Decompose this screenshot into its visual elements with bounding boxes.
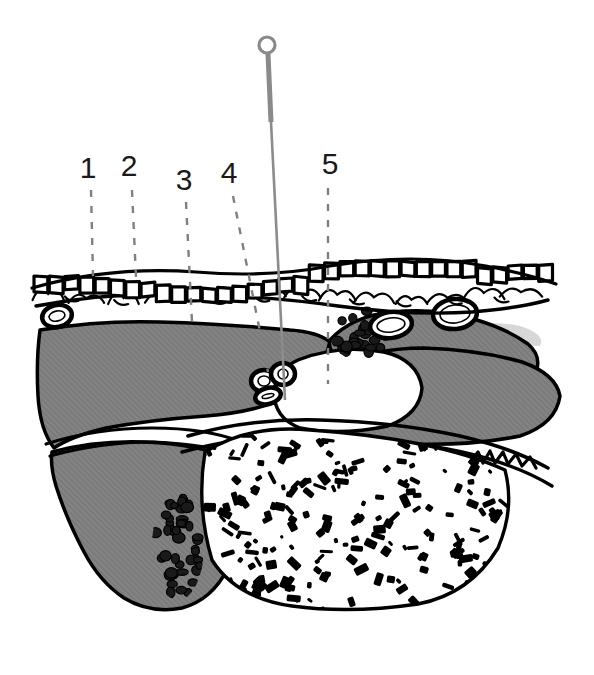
granule	[160, 551, 172, 561]
epidermis-cell	[294, 276, 308, 294]
epidermis-cell	[49, 276, 63, 294]
granule	[338, 317, 346, 325]
anatomical-figure: 12345	[0, 0, 594, 675]
granule	[192, 534, 203, 541]
granule	[161, 511, 171, 519]
epidermis-cell	[263, 281, 277, 295]
trabecula	[257, 460, 264, 467]
trabecula	[386, 575, 395, 583]
epidermis-cell	[80, 277, 94, 293]
trabecula	[396, 458, 407, 464]
epidermis-cell	[401, 261, 415, 276]
epidermis-cell	[370, 261, 384, 277]
epidermis-cell	[386, 261, 400, 277]
granule	[349, 314, 357, 323]
figure-canvas: 12345	[0, 0, 594, 675]
epidermis-cell	[218, 287, 232, 302]
granule	[177, 520, 186, 527]
granule	[171, 502, 178, 508]
epidermis-cell	[432, 262, 446, 276]
trabecula	[262, 547, 268, 554]
needle-shaft-upper	[268, 54, 271, 122]
granule	[181, 502, 194, 512]
label-number-3: 3	[176, 163, 193, 196]
trabecula	[467, 479, 474, 485]
granule	[365, 344, 376, 351]
epidermis-cell	[447, 261, 461, 276]
epidermis-cell	[95, 278, 109, 293]
epidermis-cell	[126, 282, 140, 298]
granule	[355, 330, 366, 336]
label-number-2: 2	[121, 149, 138, 182]
epidermis-cell	[279, 278, 293, 292]
trabecula	[406, 488, 416, 496]
trabecula	[307, 582, 312, 589]
epidermis-cell	[248, 284, 262, 298]
granule	[360, 321, 369, 331]
epidermis-cell	[416, 262, 430, 277]
epidermis-cell	[172, 287, 186, 303]
granule	[165, 568, 177, 579]
trabecula	[286, 594, 301, 602]
label-number-1: 1	[80, 151, 97, 184]
trabecula	[343, 543, 349, 547]
granule	[167, 580, 177, 587]
vessel-small-a-lumen	[258, 376, 270, 386]
epidermis-cell	[233, 286, 247, 302]
granule	[171, 554, 179, 564]
trabecula	[350, 545, 363, 552]
epidermis-cell	[156, 285, 170, 302]
epidermis-cell	[202, 288, 216, 303]
granule	[176, 586, 187, 593]
granule	[164, 525, 171, 535]
needle-ring-handle[interactable]	[259, 37, 275, 53]
label-number-5: 5	[322, 147, 339, 180]
epidermis-cell	[478, 268, 492, 285]
granule	[186, 521, 193, 531]
label-number-4: 4	[221, 156, 238, 189]
epidermis-cell	[110, 280, 124, 296]
trabecula	[322, 440, 329, 444]
epidermis-cell	[141, 282, 155, 297]
granule	[376, 344, 385, 352]
granule	[172, 526, 180, 534]
trabecula	[375, 495, 384, 501]
epidermis-cell	[187, 287, 201, 301]
trabecula	[320, 550, 334, 554]
granule	[192, 548, 200, 555]
